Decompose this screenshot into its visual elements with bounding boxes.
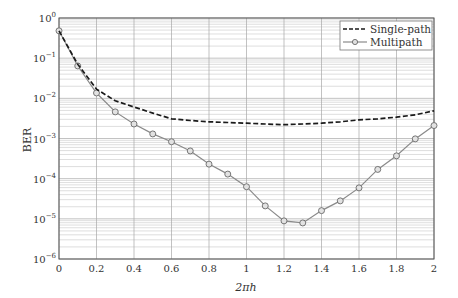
data-point-marker <box>131 121 137 127</box>
legend-single-path-label: Single-path <box>370 23 431 35</box>
y-axis-label: BER <box>21 127 34 152</box>
data-point-marker <box>262 203 268 209</box>
data-point-marker <box>225 171 231 177</box>
y-tick-label: 10−3 <box>33 132 56 145</box>
x-axis-label: 2πh <box>234 281 256 294</box>
y-tick-label: 10−2 <box>33 91 56 104</box>
data-point-marker <box>375 166 381 172</box>
data-point-marker <box>412 136 418 142</box>
grid-lines <box>59 18 434 259</box>
data-point-marker <box>337 198 343 204</box>
y-tick-label: 10−4 <box>33 172 57 185</box>
ber-chart: 00.20.40.60.811.21.41.61.82 10010−110−21… <box>0 0 458 298</box>
data-point-marker <box>281 218 287 224</box>
x-tick-label: 1 <box>243 263 249 274</box>
x-tick-label: 0.8 <box>201 263 217 274</box>
x-tick-label: 1.6 <box>351 263 367 274</box>
data-point-marker <box>431 123 437 129</box>
data-point-marker <box>319 208 325 214</box>
data-point-marker <box>300 220 306 226</box>
y-tick-label: 10−1 <box>33 51 56 64</box>
data-point-marker <box>150 131 156 137</box>
x-tick-label: 1.4 <box>314 263 330 274</box>
y-axis-ticks: 10010−110−210−310−410−510−6 <box>33 11 57 265</box>
x-tick-label: 1.8 <box>389 263 405 274</box>
y-tick-label: 100 <box>39 11 56 24</box>
legend: Single-path Multipath <box>340 21 432 50</box>
data-point-marker <box>112 109 118 115</box>
x-tick-label: 2 <box>431 263 437 274</box>
y-tick-label: 10−5 <box>33 212 56 225</box>
data-point-marker <box>187 148 193 154</box>
data-point-marker <box>169 139 175 145</box>
data-point-marker <box>206 161 212 167</box>
x-tick-label: 0 <box>56 263 62 274</box>
x-tick-label: 0.2 <box>89 263 105 274</box>
legend-multipath-label: Multipath <box>370 36 423 48</box>
data-point-marker <box>394 153 400 159</box>
y-tick-label: 10−6 <box>33 252 57 265</box>
data-point-marker <box>244 184 250 190</box>
x-tick-label: 1.2 <box>276 263 292 274</box>
legend-multipath-marker-icon <box>352 39 357 44</box>
data-point-marker <box>356 185 362 191</box>
x-axis-ticks: 00.20.40.60.811.21.41.61.82 <box>56 263 437 274</box>
x-tick-label: 0.4 <box>126 263 142 274</box>
x-tick-label: 0.6 <box>164 263 180 274</box>
